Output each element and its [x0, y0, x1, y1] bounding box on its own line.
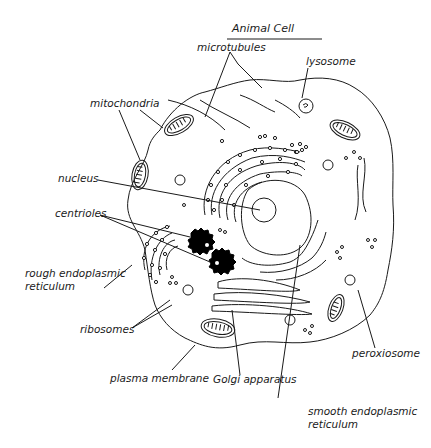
label-microtubules: microtubules — [197, 41, 266, 54]
label-lysosome: lysosome — [306, 55, 356, 68]
label-rough-er: rough endoplasmic reticulum — [25, 267, 126, 293]
label-smooth-er: smooth endoplasmic reticulum — [308, 405, 417, 431]
label-peroxisome: peroxiosome — [352, 347, 420, 360]
golgi-apparatus — [212, 279, 312, 315]
ribosomes-on-rough-er-left — [142, 225, 168, 283]
label-ribosomes: ribosomes — [80, 323, 134, 336]
label-smooth-er-line1: smooth endoplasmic — [308, 405, 417, 418]
label-centrioles: centrioles — [55, 207, 107, 220]
nucleus — [241, 180, 311, 255]
label-smooth-er-line2: reticulum — [308, 418, 417, 431]
diagram-title: Animal Cell — [232, 22, 294, 35]
lysosome — [299, 99, 313, 113]
label-mitochondria: mitochondria — [90, 97, 160, 110]
rough-er-top — [204, 148, 305, 222]
mitochondria — [130, 110, 363, 340]
peroxisome — [345, 275, 355, 285]
smooth-er — [242, 158, 366, 280]
rough-er-left — [144, 226, 178, 280]
centrioles — [188, 228, 236, 275]
animal-cell-diagram: Animal Cell microtubules lysosome mitoch… — [0, 0, 431, 448]
label-rough-er-line1: rough endoplasmic — [25, 267, 126, 280]
centriole-highlight — [205, 243, 209, 247]
label-golgi-apparatus: Golgi apparatus — [213, 373, 297, 386]
label-rough-er-line2: reticulum — [25, 280, 126, 293]
centriole-highlight — [215, 261, 219, 265]
label-nucleus: nucleus — [58, 172, 99, 185]
label-plasma-membrane: plasma membrane — [110, 372, 209, 385]
